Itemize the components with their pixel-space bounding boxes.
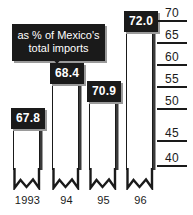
value-label-96: 72.0 bbox=[124, 11, 158, 32]
x-axis-label-96: 96 bbox=[121, 195, 160, 206]
x-axis-label-95: 95 bbox=[84, 195, 123, 206]
bar-broken-axis-zigzag-icon bbox=[52, 168, 82, 190]
annotation-line-1: as % of Mexico's bbox=[16, 29, 101, 42]
bar-95 bbox=[89, 103, 116, 170]
y-axis-tick-label: 70 bbox=[157, 7, 187, 22]
y-axis-tick-55: 55 bbox=[157, 73, 187, 88]
y-axis-tick-label: 50 bbox=[157, 95, 187, 110]
annotation-line-2: total imports bbox=[16, 42, 101, 55]
y-axis-tick-70: 70 bbox=[157, 7, 187, 22]
bar-chart: 67.8 68.4 70.9 72.0 1993 94 95 96 70 65 … bbox=[0, 0, 193, 215]
y-axis: 70 65 60 55 50 45 40 bbox=[157, 0, 193, 215]
y-axis-tick-65: 65 bbox=[157, 29, 187, 44]
y-axis-tick-label: 65 bbox=[157, 29, 187, 44]
bar-94 bbox=[52, 85, 79, 170]
y-axis-tick-50: 50 bbox=[157, 95, 187, 110]
y-axis-tick-60: 60 bbox=[157, 51, 187, 66]
y-axis-tick-label: 45 bbox=[157, 127, 187, 142]
bar-96 bbox=[126, 33, 153, 170]
y-axis-tick-40: 40 bbox=[157, 152, 187, 167]
bar-broken-axis-zigzag-icon bbox=[13, 168, 43, 190]
value-label-94: 68.4 bbox=[50, 63, 84, 84]
bar-1993 bbox=[13, 130, 40, 170]
value-label-1993: 67.8 bbox=[11, 108, 45, 129]
y-axis-tick-label: 55 bbox=[157, 73, 187, 88]
y-axis-tick-45: 45 bbox=[157, 127, 187, 142]
x-axis-label-94: 94 bbox=[47, 195, 86, 206]
y-axis-tick-label: 40 bbox=[157, 152, 187, 167]
x-axis-label-1993: 1993 bbox=[8, 195, 47, 206]
bar-broken-axis-zigzag-icon bbox=[89, 168, 119, 190]
value-label-95: 70.9 bbox=[87, 81, 121, 102]
bar-broken-axis-zigzag-icon bbox=[126, 168, 156, 190]
y-axis-tick-label: 60 bbox=[157, 51, 187, 66]
annotation-pointer-icon bbox=[50, 56, 64, 64]
